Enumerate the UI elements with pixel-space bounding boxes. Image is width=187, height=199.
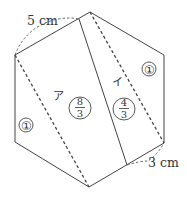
region-label-i: イ bbox=[112, 76, 123, 89]
fraction-a-denominator: 3 bbox=[77, 108, 83, 119]
hexagon-outline bbox=[15, 12, 164, 187]
dimension-label-5cm: 5 cm bbox=[27, 13, 58, 28]
dimension-label-3cm: 3 cm bbox=[148, 155, 179, 170]
dashed-diagonal-right bbox=[90, 12, 164, 143]
region-label-right: ① bbox=[144, 63, 155, 77]
fraction-a-numerator: 8 bbox=[77, 96, 83, 107]
solid-cut-line bbox=[79, 19, 127, 165]
region-label-left: ① bbox=[21, 119, 32, 133]
fraction-i-denominator: 3 bbox=[121, 109, 127, 120]
region-label-a: ア bbox=[53, 90, 64, 103]
fraction-i-numerator: 4 bbox=[121, 97, 127, 108]
hexagon-diagram: 5 cm 3 cm ① ① ア イ 8 3 4 3 bbox=[0, 0, 187, 199]
